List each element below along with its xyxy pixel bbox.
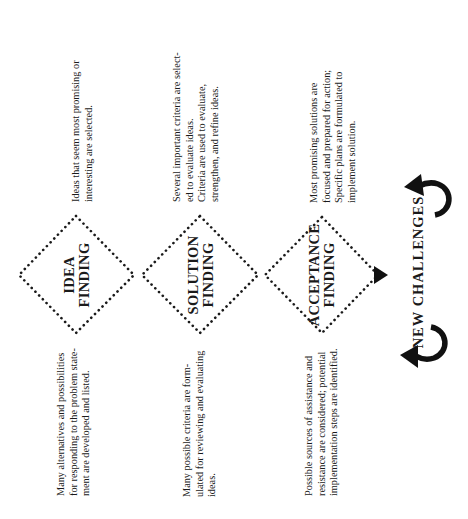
idea-convergent-text: Ideas that seem most promising or intere… xyxy=(70,60,95,202)
idea-divergent-text: Many alternatives and possibilities for … xyxy=(55,348,93,496)
acceptance-divergent-text: Possible sources of assistance and resis… xyxy=(303,348,341,496)
acceptance-finding-label: ACCEPTANCE FINDING xyxy=(307,224,337,327)
acceptance-convergent-text: Most promising solutions are focused and… xyxy=(308,70,358,203)
flow-arrowhead-icon xyxy=(374,266,388,284)
creative-problem-solving-diagram: IDEA FINDING SOLUTION FINDING ACCEPTANCE… xyxy=(0,0,468,519)
solution-divergent-text: Many possible criteria are form- ulated … xyxy=(181,351,219,497)
idea-finding-label: IDEA FINDING xyxy=(62,243,92,308)
solution-convergent-text: Several important criteria are select- e… xyxy=(171,52,221,202)
new-challenges-label: NEW CHALLENGES xyxy=(410,196,427,349)
solution-finding-label: SOLUTION FINDING xyxy=(186,236,216,315)
